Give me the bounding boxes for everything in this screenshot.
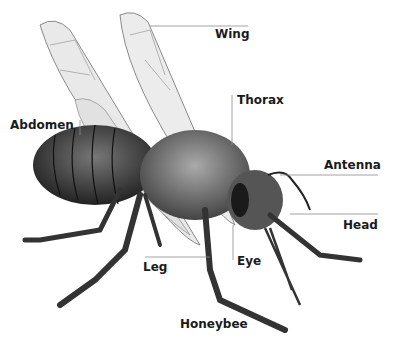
label-antenna: Antenna [324,158,381,172]
label-eye: Eye [237,254,261,268]
label-wing: Wing [215,27,249,41]
label-thorax: Thorax [237,93,284,107]
diagram-title: Honeybee [180,317,248,331]
honeybee-diagram: Wing Thorax Abdomen Antenna Head Leg Eye… [0,0,394,352]
label-head: Head [343,218,378,232]
honeybee-illustration [0,0,394,352]
compound-eye [231,183,249,217]
label-leg: Leg [143,260,167,274]
label-abdomen: Abdomen [10,118,74,132]
